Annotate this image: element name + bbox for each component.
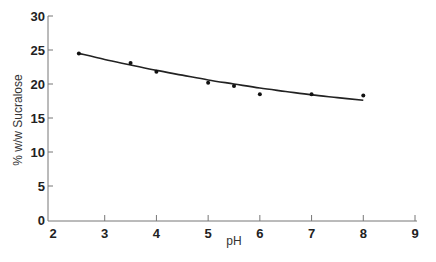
data-points xyxy=(77,51,365,97)
y-tick-label: 10 xyxy=(31,145,45,160)
x-tick-label: 4 xyxy=(153,226,161,241)
x-tick-label: 8 xyxy=(360,226,367,241)
y-axis-title: % w/w Sucralose xyxy=(11,74,25,166)
x-axis-title: pH xyxy=(226,234,241,248)
x-tick-label: 2 xyxy=(49,226,56,241)
axes xyxy=(48,16,417,221)
data-point xyxy=(77,51,81,55)
y-tick-label: 15 xyxy=(31,111,45,126)
data-point xyxy=(310,92,314,96)
x-tick-label: 3 xyxy=(101,226,108,241)
y-tick-label: 20 xyxy=(31,77,45,92)
y-tick-label: 5 xyxy=(38,179,45,194)
x-tick-label: 7 xyxy=(308,226,315,241)
data-point xyxy=(206,81,210,85)
x-tick-label: 5 xyxy=(205,226,212,241)
y-axis-ticks: 051015202530 xyxy=(31,9,53,228)
chart: 23456789 051015202530 pH % w/w Sucralose xyxy=(0,0,436,262)
x-tick-label: 6 xyxy=(256,226,263,241)
y-tick-label: 25 xyxy=(31,43,45,58)
data-point xyxy=(129,61,133,65)
data-point xyxy=(361,94,365,98)
x-tick-label: 9 xyxy=(411,226,418,241)
data-point xyxy=(154,70,158,74)
y-tick-label: 0 xyxy=(38,213,45,228)
data-point xyxy=(232,84,236,88)
data-point xyxy=(258,92,262,96)
fit-curve xyxy=(79,53,363,100)
y-tick-label: 30 xyxy=(31,9,45,24)
